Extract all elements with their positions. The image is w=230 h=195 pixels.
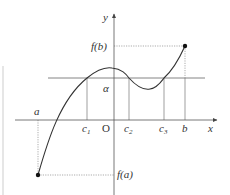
c1-tick-label: c1 [82, 122, 90, 136]
b-tick-label: b [182, 122, 188, 134]
point-a-fa [36, 173, 40, 177]
c3-tick-label: c3 [159, 122, 168, 136]
origin-label: O [102, 122, 110, 134]
fb-label: f(b) [91, 40, 107, 53]
a-tick-label: a [34, 105, 40, 117]
point-b-fb [183, 44, 187, 48]
y-axis-label: y [102, 11, 108, 23]
function-curve [38, 46, 185, 175]
function-graph: y x O f(b) α f(a) a c1 c2 c3 b [0, 0, 230, 195]
c2-tick-label: c2 [124, 122, 133, 136]
alpha-label: α [103, 82, 109, 94]
x-axis-label: x [207, 122, 213, 134]
fa-label: f(a) [117, 168, 133, 181]
